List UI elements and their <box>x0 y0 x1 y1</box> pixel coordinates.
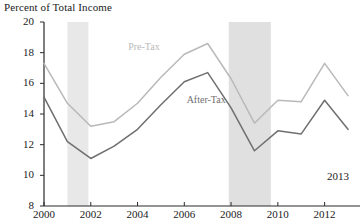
recession-shading-group <box>67 22 270 206</box>
x-tick-label-2006: 2006 <box>164 208 204 220</box>
series-line-after-tax <box>44 73 348 159</box>
y-tick-label-12: 12 <box>12 138 34 150</box>
x-tick-label-2002: 2002 <box>71 208 111 220</box>
x-tick-label-2010: 2010 <box>258 208 298 220</box>
series-line-pre-tax <box>44 43 348 126</box>
chart-container: Percent of Total Income 8101214161820 20… <box>0 0 362 222</box>
y-tick-label-16: 16 <box>12 76 34 88</box>
x-tick-label-2008: 2008 <box>211 208 251 220</box>
y-tick-label-20: 20 <box>12 15 34 27</box>
chart-plot-area <box>0 0 362 222</box>
y-tick-label-14: 14 <box>12 107 34 119</box>
x-tick-label-2012: 2012 <box>305 208 345 220</box>
y-tick-label-18: 18 <box>12 46 34 58</box>
y-tick-label-10: 10 <box>12 168 34 180</box>
x-tick-label-2004: 2004 <box>118 208 158 220</box>
x-tick-label-2000: 2000 <box>24 208 64 220</box>
annotation-year-2013: 2013 <box>327 170 349 182</box>
series-label-pre-tax: Pre-Tax <box>128 41 160 52</box>
series-label-after-tax: After-Tax <box>187 94 226 105</box>
